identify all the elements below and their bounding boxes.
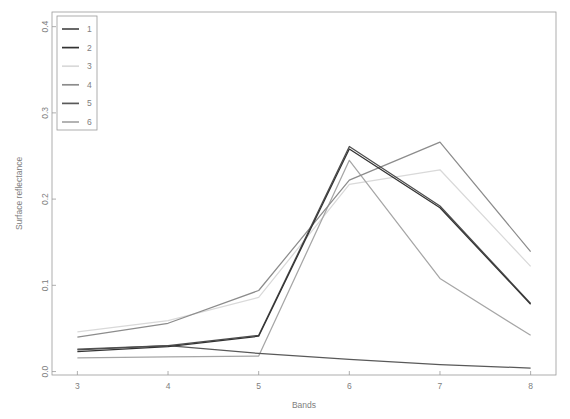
y-tick-label: 0.0 [40,365,50,377]
y-tick-label: 0.2 [40,193,50,205]
spectral-reflectance-chart: 3456780.00.10.20.30.4BandsSurface reflec… [0,0,570,419]
legend-label-2[interactable]: 2 [87,43,92,53]
x-tick-label: 8 [528,381,533,391]
plot-frame [52,12,556,375]
series-line-6 [77,160,530,357]
y-tick-label: 0.3 [40,107,50,119]
y-tick-label: 0.1 [40,279,50,291]
x-tick-label: 7 [438,381,443,391]
legend-label-4[interactable]: 4 [87,80,92,90]
legend-label-3[interactable]: 3 [87,61,92,71]
y-tick-label: 0.4 [40,20,50,32]
x-axis-title: Bands [292,400,316,410]
legend-label-6[interactable]: 6 [87,117,92,127]
x-tick-label: 5 [256,381,261,391]
series-line-2 [77,149,530,352]
series-line-3 [77,170,530,332]
chart-root: 3456780.00.10.20.30.4BandsSurface reflec… [0,0,570,419]
x-tick-label: 6 [347,381,352,391]
x-tick-label: 3 [75,381,80,391]
series-line-1 [77,147,530,350]
x-tick-label: 4 [166,381,171,391]
y-axis-title: Surface reflectance [14,157,24,231]
legend-label-1[interactable]: 1 [87,24,92,34]
legend-label-5[interactable]: 5 [87,98,92,108]
